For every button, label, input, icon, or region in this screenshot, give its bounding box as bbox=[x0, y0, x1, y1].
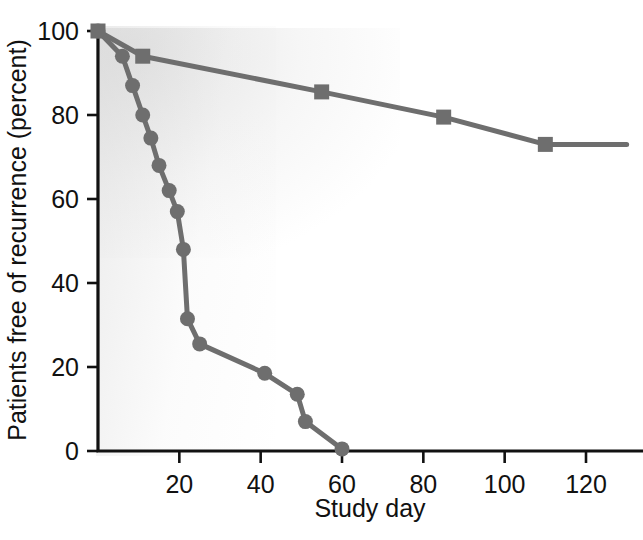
x-axis-title: Study day bbox=[314, 494, 426, 522]
data-point-marker bbox=[125, 78, 140, 93]
series-square-series bbox=[91, 24, 627, 152]
y-tick-label: 0 bbox=[65, 437, 79, 465]
y-tick-label: 20 bbox=[51, 353, 79, 381]
data-point-marker bbox=[162, 183, 177, 198]
data-point-marker bbox=[257, 366, 272, 381]
data-point-marker bbox=[180, 311, 195, 326]
recurrence-line-chart: 020406080100 20406080100120 Study day Pa… bbox=[0, 0, 643, 540]
data-point-marker bbox=[538, 137, 553, 152]
y-tick-label: 40 bbox=[51, 269, 79, 297]
data-series-layer bbox=[91, 24, 627, 457]
data-point-marker bbox=[115, 49, 130, 64]
data-point-marker bbox=[135, 108, 150, 123]
figure-container: 020406080100 20406080100120 Study day Pa… bbox=[0, 0, 643, 540]
data-point-marker bbox=[170, 204, 185, 219]
y-axis-tick-labels: 020406080100 bbox=[37, 17, 79, 465]
y-axis-title: Patients free of recurrence (percent) bbox=[3, 39, 31, 441]
data-point-marker bbox=[436, 110, 451, 125]
y-tick-label: 100 bbox=[37, 17, 79, 45]
data-point-marker bbox=[335, 441, 350, 456]
data-point-marker bbox=[135, 49, 150, 64]
x-tick-label: 20 bbox=[165, 470, 193, 498]
y-tick-label: 80 bbox=[51, 101, 79, 129]
data-point-marker bbox=[192, 336, 207, 351]
data-point-marker bbox=[290, 387, 305, 402]
data-point-marker bbox=[176, 242, 191, 257]
series-line-circle-series bbox=[98, 31, 342, 449]
series-line-square-series bbox=[98, 31, 627, 144]
x-tick-label: 40 bbox=[247, 470, 275, 498]
data-point-marker bbox=[298, 414, 313, 429]
x-tick-label: 100 bbox=[484, 470, 526, 498]
data-point-marker bbox=[143, 131, 158, 146]
data-point-marker bbox=[91, 24, 106, 39]
y-tick-label: 60 bbox=[51, 185, 79, 213]
x-tick-label: 120 bbox=[565, 470, 607, 498]
data-point-marker bbox=[152, 158, 167, 173]
data-point-marker bbox=[314, 84, 329, 99]
